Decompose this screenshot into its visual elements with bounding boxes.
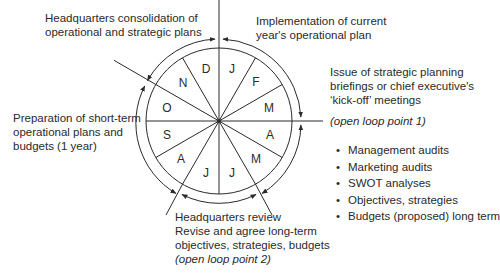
month-feb: F [252,75,259,89]
month-oct: O [162,101,171,115]
label-line: Headquarters review [175,210,330,224]
label-issue-briefings: Issue of strategic planning briefings or… [330,65,474,107]
bullet-item: Budgets (proposed) long term [336,208,500,225]
label-line: ‘kick-off’ meetings [330,93,474,107]
month-dec: D [202,62,211,76]
wheel-center [217,119,221,123]
label-open-loop-1: (open loop point 1) [330,114,426,128]
label-hq-review: Headquarters review Revise and agree lon… [175,210,330,266]
bullet-item: Marketing audits [336,159,500,176]
label-line: year's operational plan [256,28,386,42]
label-implementation: Implementation of current year's operati… [256,14,386,42]
month-aug: A [177,152,185,166]
month-apr: A [266,128,274,142]
label-line: operational plans and [13,125,141,139]
axis-nw [114,60,156,84]
label-line: briefings or chief executive's [330,79,474,93]
label-line: Preparation of short-term [13,111,141,125]
label-line: Headquarters consolidation of [45,11,202,25]
label-line: Implementation of current [256,14,386,28]
month-mar: M [264,101,274,115]
month-jul: J [203,166,209,180]
bullet-item: Management audits [336,142,500,159]
month-sep: S [163,128,171,142]
month-may: M [251,152,261,166]
label-open-loop-2: (open loop point 2) [175,252,330,266]
label-preparation: Preparation of short-term operational pl… [13,111,141,153]
label-line: Revise and agree long-term [175,224,330,238]
month-jan: J [229,62,235,76]
month-nov: N [179,76,188,90]
label-hq-consolidation: Headquarters consolidation of operationa… [45,11,202,39]
month-jun: J [229,166,235,180]
bullet-item: SWOT analyses [336,175,500,192]
arc-bottom [182,195,256,204]
label-line: budgets (1 year) [13,139,141,153]
audit-bullet-list: Management audits Marketing audits SWOT … [336,142,500,225]
label-line: operational and strategic plans [45,25,202,39]
label-line: Issue of strategic planning [330,65,474,79]
bullet-item: Objectives, strategies [336,192,500,209]
arc-top-right [223,39,301,117]
label-line: objectives, strategies, budgets [175,238,330,252]
